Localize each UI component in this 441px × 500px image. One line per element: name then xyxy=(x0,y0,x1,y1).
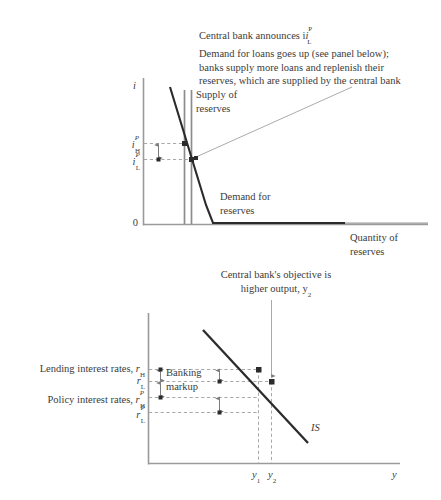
objective-caption-line-1: Central bank's objective is xyxy=(186,268,366,282)
xtick-y2: y2 xyxy=(268,468,276,486)
caption-pointer-dot xyxy=(194,156,198,160)
top-caption-line-3: banks supply more loans and replenish th… xyxy=(199,61,439,75)
dot-r-H-P-left xyxy=(159,396,163,400)
top-caption-line-1: Central bank announces iiPL xyxy=(199,26,439,47)
ylabel-r-L-P: rPL xyxy=(8,405,145,426)
demand-for-reserves-label: Demand for reserves xyxy=(220,190,270,217)
top-y-axis-label: i xyxy=(133,79,136,92)
marker-i-L-P xyxy=(189,157,194,162)
top-caption: Central bank announces iiPL Demand for l… xyxy=(199,26,439,88)
objective-caption: Central bank's objective is higher outpu… xyxy=(186,268,366,300)
bottom-x-axis-label: y xyxy=(392,468,397,481)
marker-i-H-P xyxy=(182,141,187,146)
supply-of-reserves-label: Supply of reserves xyxy=(196,88,237,115)
ytick-zero: 0 xyxy=(114,216,138,229)
figure-canvas: Central bank announces iiPL Demand for l… xyxy=(0,0,441,500)
objective-caption-line-2: higher output, y2 xyxy=(186,282,366,301)
top-caption-line-4: reserves, which are supplied by the cent… xyxy=(199,74,439,88)
marker-y2-rL xyxy=(269,379,275,385)
arrow-endpoint-dot-left xyxy=(157,158,161,162)
banking-markup-label: Banking markup xyxy=(166,366,202,393)
top-caption-line-2: Demand for loans goes up (see panel belo… xyxy=(199,47,439,61)
ytick-i-L-P: iPL xyxy=(106,152,140,173)
dot-r-L-span xyxy=(218,380,222,384)
is-curve-label: IS xyxy=(311,421,320,434)
dot-r-L-P-span xyxy=(218,411,222,415)
is-curve xyxy=(203,330,308,443)
xtick-y1: y1 xyxy=(252,468,260,486)
top-x-axis-label: Quantity of reserves xyxy=(350,231,398,258)
dot-r-H-left xyxy=(159,368,163,372)
marker-y1-rH xyxy=(256,367,262,373)
top-panel-axes xyxy=(144,78,429,226)
